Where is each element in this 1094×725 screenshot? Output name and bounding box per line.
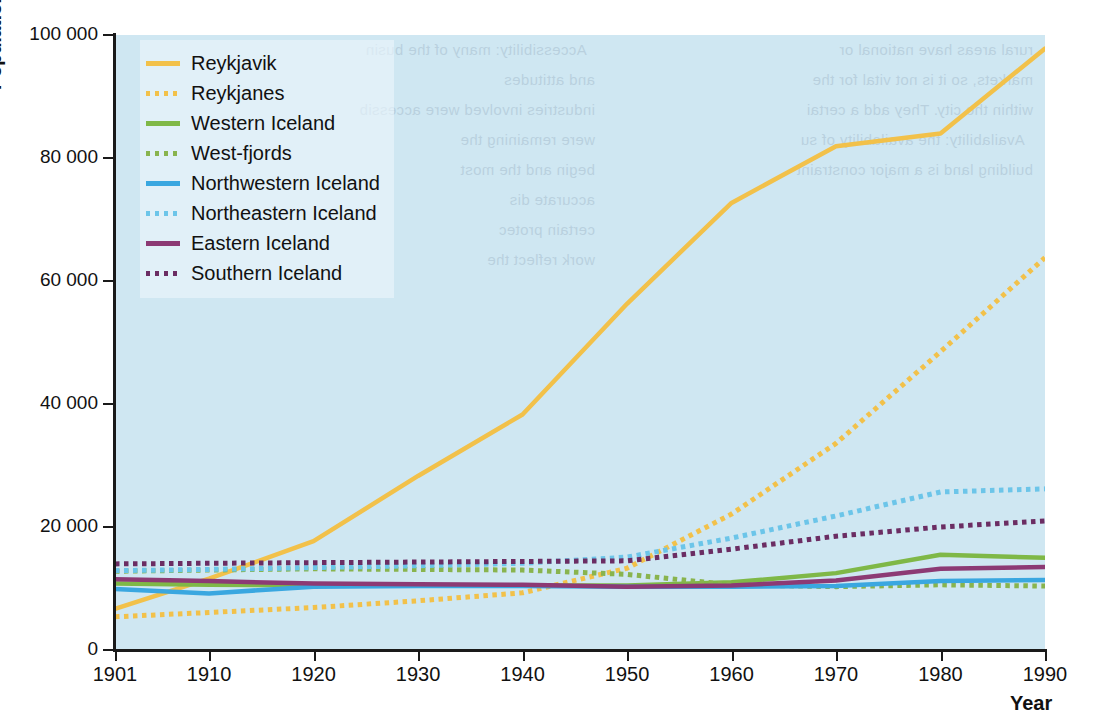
- x-axis-tick-label: 1910: [169, 663, 249, 686]
- x-axis-tick-label: 1980: [901, 663, 981, 686]
- x-axis-tick: [418, 650, 420, 661]
- x-axis-tick: [732, 650, 734, 661]
- x-axis-tick-label: 1901: [75, 663, 155, 686]
- legend-item[interactable]: Eastern Iceland: [146, 228, 380, 258]
- legend-item-label: Northeastern Iceland: [191, 202, 377, 225]
- x-axis-tick-label: 1950: [587, 663, 667, 686]
- legend-item[interactable]: Western Iceland: [146, 108, 380, 138]
- chart-figure: rural areas have national or markets, so…: [0, 0, 1094, 725]
- legend-swatch-icon: [146, 61, 180, 66]
- y-axis-tick-label: 20 000: [0, 515, 98, 537]
- legend-swatch-icon: [146, 151, 180, 156]
- x-axis-tick: [1045, 650, 1047, 661]
- legend-item-label: Eastern Iceland: [191, 232, 330, 255]
- legend-item-label: Reykjanes: [191, 82, 284, 105]
- legend-item[interactable]: West-fjords: [146, 138, 380, 168]
- legend-swatch-icon: [146, 91, 180, 96]
- y-axis-tick-label: 60 000: [0, 269, 98, 291]
- y-axis-line: [113, 33, 116, 652]
- chart-legend: ReykjavikReykjanesWestern IcelandWest-fj…: [140, 40, 394, 298]
- legend-swatch-icon: [146, 121, 180, 126]
- y-axis-tick: [103, 280, 114, 282]
- y-axis-title: Population: [0, 0, 6, 90]
- legend-swatch-icon: [146, 271, 180, 276]
- x-axis-tick-label: 1920: [274, 663, 354, 686]
- x-axis-tick: [941, 650, 943, 661]
- legend-item-label: Western Iceland: [191, 112, 335, 135]
- y-axis-tick-label: 40 000: [0, 392, 98, 414]
- y-axis-tick: [103, 34, 114, 36]
- series-line: [115, 521, 1045, 564]
- legend-swatch-icon: [146, 181, 180, 186]
- x-axis-tick: [314, 650, 316, 661]
- legend-item[interactable]: Southern Iceland: [146, 258, 380, 288]
- legend-swatch-icon: [146, 241, 180, 246]
- y-axis-tick: [103, 526, 114, 528]
- x-axis-tick: [627, 650, 629, 661]
- x-axis-tick-label: 1940: [483, 663, 563, 686]
- x-axis-tick-label: 1960: [692, 663, 772, 686]
- legend-item-label: Northwestern Iceland: [191, 172, 380, 195]
- legend-item-label: Reykjavik: [191, 52, 277, 75]
- x-axis-title: Year: [1010, 692, 1052, 715]
- y-axis-tick: [103, 157, 114, 159]
- x-axis-tick: [836, 650, 838, 661]
- legend-item[interactable]: Northwestern Iceland: [146, 168, 380, 198]
- legend-item[interactable]: Reykjavik: [146, 48, 380, 78]
- x-axis-tick-label: 1990: [1005, 663, 1085, 686]
- legend-item[interactable]: Reykjanes: [146, 78, 380, 108]
- legend-swatch-icon: [146, 211, 180, 216]
- legend-item-label: West-fjords: [191, 142, 292, 165]
- y-axis-tick: [103, 649, 114, 651]
- x-axis-tick: [209, 650, 211, 661]
- x-axis-tick-label: 1970: [796, 663, 876, 686]
- y-axis-tick-label: 100 000: [0, 23, 98, 45]
- x-axis-tick: [115, 650, 117, 661]
- y-axis-tick: [103, 403, 114, 405]
- legend-item-label: Southern Iceland: [191, 262, 342, 285]
- x-axis-tick: [523, 650, 525, 661]
- y-axis-tick-label: 80 000: [0, 146, 98, 168]
- legend-item[interactable]: Northeastern Iceland: [146, 198, 380, 228]
- x-axis-line: [113, 649, 1047, 652]
- y-axis-tick-label: 0: [0, 638, 98, 660]
- x-axis-tick-label: 1930: [378, 663, 458, 686]
